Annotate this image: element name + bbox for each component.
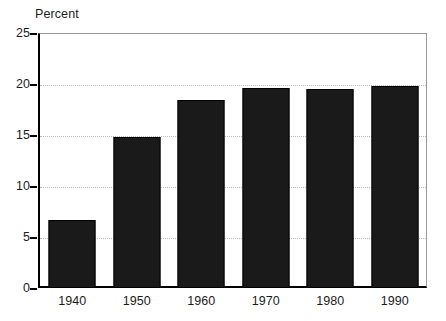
- x-axis-label-1970: 1970: [252, 294, 280, 308]
- y-tick-20: [30, 84, 37, 86]
- y-tick-15: [30, 135, 37, 137]
- bar-slot-1940: [40, 33, 105, 288]
- y-axis-label-25: 25: [2, 27, 30, 39]
- bar-slot-1950: [105, 33, 170, 288]
- bar-group: [40, 33, 427, 288]
- y-axis-label-group: 0510152025: [0, 0, 30, 321]
- bar-slot-1970: [234, 33, 299, 288]
- y-axis-label-5: 5: [2, 231, 30, 243]
- y-tick-25: [30, 33, 37, 35]
- y-axis-label-15: 15: [2, 129, 30, 141]
- y-axis-label-10: 10: [2, 180, 30, 192]
- bar-1960[interactable]: [178, 100, 225, 288]
- bar-1950[interactable]: [113, 137, 160, 288]
- x-axis-label-1960: 1960: [187, 294, 215, 308]
- y-axis-label-20: 20: [2, 78, 30, 90]
- x-axis-label-1940: 1940: [58, 294, 86, 308]
- bar-chart: Percent 0510152025 194019501960197019801…: [0, 0, 446, 321]
- bar-1970[interactable]: [242, 88, 289, 288]
- y-axis-label-0: 0: [2, 282, 30, 294]
- chart-axis-title: Percent: [35, 7, 79, 21]
- bar-1990[interactable]: [371, 86, 418, 288]
- x-axis-label-1990: 1990: [381, 294, 409, 308]
- x-axis-label-group: 194019501960197019801990: [40, 294, 427, 314]
- y-tick-10: [30, 186, 37, 188]
- bar-slot-1960: [169, 33, 234, 288]
- x-axis-label-1980: 1980: [316, 294, 344, 308]
- y-tick-5: [30, 237, 37, 239]
- x-axis-label-1950: 1950: [123, 294, 151, 308]
- bar-1980[interactable]: [307, 89, 354, 288]
- bar-slot-1990: [363, 33, 428, 288]
- bar-slot-1980: [298, 33, 363, 288]
- bar-1940[interactable]: [49, 220, 96, 288]
- y-tick-0: [30, 288, 37, 290]
